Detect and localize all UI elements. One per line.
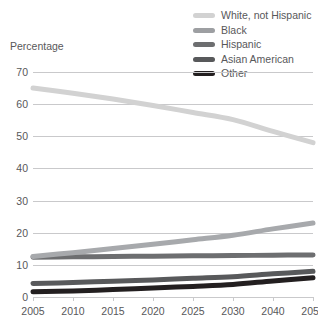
y-axis-tick-label: 30 [16,195,28,207]
x-axis-tick-mark [33,297,34,301]
chart-container: White, not Hispanic Black Hispanic Asian… [0,0,318,325]
y-axis-tick-label: 10 [16,259,28,271]
legend-label: Black [221,25,247,36]
y-axis-tick-label: 50 [16,130,28,142]
x-axis-tick-mark [113,297,114,301]
legend-label: White, not Hispanic [221,10,311,21]
series-line [33,255,313,257]
x-axis-tick-label: 2015 [101,305,124,317]
series-line [33,223,313,256]
legend-item-white-not-hispanic: White, not Hispanic [193,10,311,21]
y-axis-tick-label: 40 [16,162,28,174]
x-axis-tick-label: 2010 [61,305,84,317]
x-axis-tick-mark [273,297,274,301]
x-axis-ticks: 20052010201520202025203020402050 [33,297,313,323]
plot-area: 010203040506070 [33,72,313,297]
legend-label: Asian American [221,54,294,65]
x-axis-tick-mark [193,297,194,301]
series-lines [33,72,313,297]
y-axis-tick-label: 20 [16,227,28,239]
legend-swatch-icon [193,57,215,62]
x-axis-tick-mark [153,297,154,301]
x-axis-tick-mark [313,297,314,301]
x-axis-tick-label: 2005 [21,305,44,317]
x-axis-tick-label: 2050 [301,305,318,317]
series-line [33,88,313,143]
y-axis-title: Percentage [10,40,64,52]
legend-label: Hispanic [221,39,261,50]
legend-item-hispanic: Hispanic [193,39,311,50]
legend-swatch-icon [193,13,215,18]
y-axis-tick-label: 60 [16,98,28,110]
x-axis-tick-label: 2030 [221,305,244,317]
x-axis-tick-mark [73,297,74,301]
y-axis-tick-label: 70 [16,66,28,78]
x-axis-tick-label: 2040 [261,305,284,317]
legend-item-black: Black [193,25,311,36]
legend-swatch-icon [193,28,215,33]
x-axis-tick-label: 2025 [181,305,204,317]
x-axis-tick-label: 2020 [141,305,164,317]
legend-item-asian-american: Asian American [193,54,311,65]
chart-legend: White, not Hispanic Black Hispanic Asian… [193,10,311,79]
legend-swatch-icon [193,42,215,47]
x-axis-tick-mark [233,297,234,301]
y-axis-tick-label: 0 [22,291,28,303]
